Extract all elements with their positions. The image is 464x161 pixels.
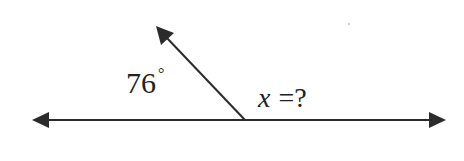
scan-speck [348,23,350,25]
known-angle-value: 76 [126,66,156,99]
right-arrowhead-icon [429,112,446,128]
known-angle-label: 76° [126,68,164,98]
ray [166,37,245,120]
degree-symbol: ° [158,65,164,82]
unknown-angle-label: x=? [258,84,307,112]
angle-diagram [0,0,464,161]
unknown-relation: =? [278,82,306,113]
left-arrowhead-icon [32,112,49,128]
unknown-variable: x [258,82,270,113]
